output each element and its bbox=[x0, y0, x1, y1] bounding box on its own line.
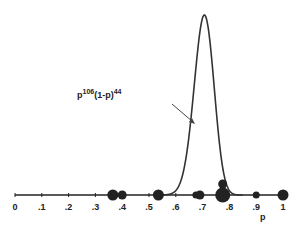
likelihood-curve bbox=[162, 15, 242, 195]
x-tick-label: .7 bbox=[199, 202, 207, 212]
x-axis-tick-labels: 0.1.2.3.4.5.6.7.8.91 bbox=[12, 202, 285, 212]
data-point bbox=[215, 188, 230, 203]
annotation-arrow bbox=[172, 104, 193, 122]
data-point bbox=[107, 190, 118, 201]
x-tick-label: .2 bbox=[65, 202, 73, 212]
x-tick-label: .8 bbox=[226, 202, 234, 212]
x-tick-label: .1 bbox=[38, 202, 46, 212]
data-point bbox=[118, 191, 127, 200]
annotation-exp1: 106 bbox=[83, 88, 95, 95]
x-tick-label: .4 bbox=[118, 202, 126, 212]
x-tick-label: .5 bbox=[145, 202, 153, 212]
data-point bbox=[278, 190, 289, 201]
data-points bbox=[107, 180, 288, 203]
data-point bbox=[195, 191, 204, 200]
annotation-exp2: 44 bbox=[114, 88, 122, 95]
svg-text:p106(1-p)44: p106(1-p)44 bbox=[77, 88, 122, 100]
x-tick-label: 1 bbox=[280, 202, 285, 212]
data-point bbox=[218, 180, 227, 189]
data-point bbox=[253, 192, 260, 199]
data-point bbox=[153, 190, 164, 201]
curve-annotation: p106(1-p)44 bbox=[77, 88, 195, 124]
x-tick-label: 0 bbox=[12, 202, 17, 212]
x-tick-label: .3 bbox=[92, 202, 100, 212]
x-tick-label: .6 bbox=[172, 202, 180, 212]
x-axis-label: p bbox=[260, 212, 266, 222]
annotation-mid: (1-p) bbox=[94, 90, 114, 100]
likelihood-chart: 0.1.2.3.4.5.6.7.8.91 p p106(1-p)44 bbox=[0, 0, 303, 229]
x-tick-label: .9 bbox=[252, 202, 260, 212]
